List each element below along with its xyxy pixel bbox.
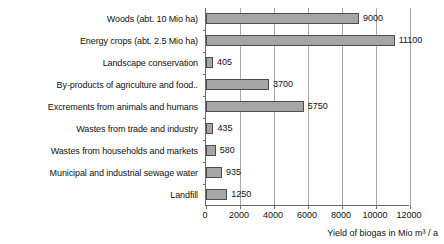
category-label: Landscape conservation <box>103 52 198 74</box>
biogas-yield-bar-chart: Woods (abt. 10 Mio ha) Energy crops (abt… <box>0 0 444 244</box>
bar-value-label: 11100 <box>399 34 423 47</box>
category-label: Wastes from trade and industry <box>76 118 198 140</box>
x-axis-title: Yield of biogas in Mio m³ / a <box>0 228 438 238</box>
bar-row: 1250 <box>206 184 409 206</box>
bar <box>206 57 213 68</box>
category-label: Energy crops (abt. 2.5 Mio ha) <box>80 30 198 52</box>
bar <box>206 35 395 46</box>
bar-row: 3700 <box>206 74 409 96</box>
category-label: Municipal and industrial sewage water <box>50 162 198 184</box>
x-axis-tick-label: 12000 <box>396 209 421 222</box>
bar <box>206 167 222 178</box>
bar-value-label: 435 <box>217 122 232 135</box>
category-label: Excrements from animals and humans <box>48 96 198 118</box>
bar-row: 405 <box>206 52 409 74</box>
bar-value-label: 935 <box>226 166 241 179</box>
bar <box>206 123 213 134</box>
x-axis-tick-label: 8000 <box>331 209 351 222</box>
bar-series: 9000 11100 405 3700 5750 435 <box>206 8 409 205</box>
category-label: By-products of agriculture and food.. <box>57 74 198 96</box>
category-axis-labels: Woods (abt. 10 Mio ha) Energy crops (abt… <box>0 8 202 206</box>
x-axis-tick-label: 6000 <box>297 209 317 222</box>
bar <box>206 13 359 24</box>
x-axis-tick-labels: 020004000600080001000012000 <box>205 209 409 223</box>
bar-row: 580 <box>206 140 409 162</box>
bar <box>206 101 304 112</box>
category-label: Wastes from households and markets <box>51 140 198 162</box>
bar-value-label: 9000 <box>363 12 383 25</box>
bar <box>206 145 216 156</box>
category-label: Woods (abt. 10 Mio ha) <box>107 8 198 30</box>
x-axis-tick-label: 2000 <box>229 209 249 222</box>
bar-value-label: 1250 <box>231 188 251 201</box>
x-axis-tick-label: 4000 <box>263 209 283 222</box>
bar-row: 9000 <box>206 8 409 30</box>
bar-value-label: 580 <box>220 144 235 157</box>
bar-value-label: 3700 <box>273 78 293 91</box>
plot-area: 9000 11100 405 3700 5750 435 <box>205 8 409 206</box>
x-axis-tick-label: 0 <box>202 209 207 222</box>
bar-row: 435 <box>206 118 409 140</box>
bar-value-label: 405 <box>217 56 232 69</box>
bar-row: 935 <box>206 162 409 184</box>
x-axis-tick-label: 10000 <box>362 209 387 222</box>
bar <box>206 79 269 90</box>
bar <box>206 189 227 200</box>
bar-value-label: 5750 <box>308 100 328 113</box>
bar-row: 5750 <box>206 96 409 118</box>
bar-row: 11100 <box>206 30 409 52</box>
category-label: Landfill <box>170 184 198 206</box>
